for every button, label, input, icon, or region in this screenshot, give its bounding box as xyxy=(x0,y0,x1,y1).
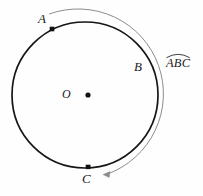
point-b-label: B xyxy=(134,60,142,73)
point-c-marker xyxy=(86,165,91,169)
arc-abc-label: ABC xyxy=(166,57,190,70)
point-a-label: A xyxy=(38,12,46,25)
figure-canvas xyxy=(0,0,203,196)
center-point-label: O xyxy=(62,88,71,100)
point-a-marker xyxy=(50,27,55,32)
arc-notation-icon xyxy=(166,52,190,58)
center-point-dot xyxy=(85,92,90,97)
arc-direction-arrowhead-icon xyxy=(103,172,110,178)
main-circle xyxy=(12,22,158,168)
arc-abc-text: ABC xyxy=(166,57,190,70)
point-c-label: C xyxy=(82,172,91,185)
geometry-figure: A B C O ABC xyxy=(0,0,203,196)
